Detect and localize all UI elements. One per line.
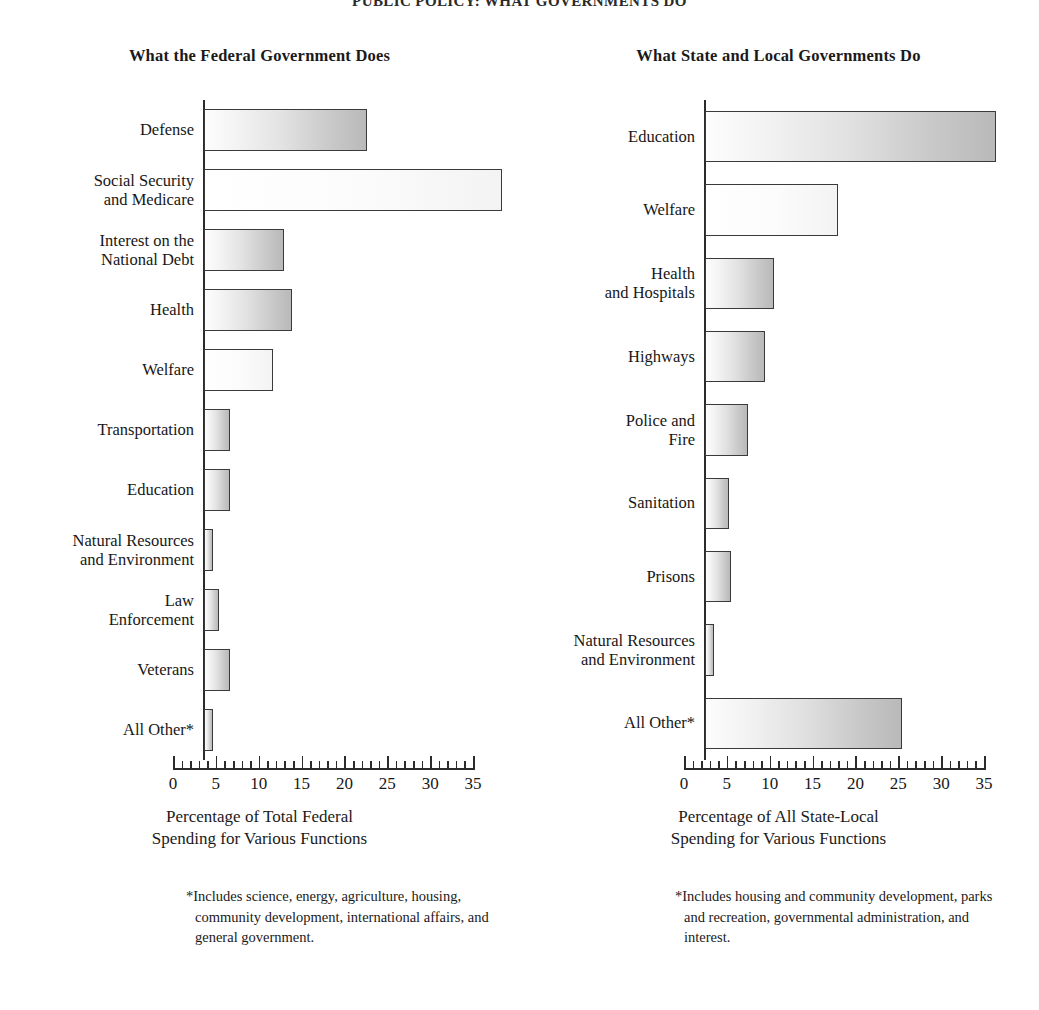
bar-category-label: Law Enforcement [0, 591, 203, 629]
axis-tick-minor [464, 761, 466, 770]
bar [705, 551, 731, 602]
bar-category-label: Interest on the National Debt [0, 231, 203, 269]
bar-row: Prisons [704, 540, 1004, 613]
bar-row: All Other* [203, 700, 503, 760]
bar-row: Highways [704, 320, 1004, 393]
bar [204, 709, 213, 751]
axis-tick-minor [456, 761, 458, 770]
bar-category-label: Police and Fire [505, 411, 704, 449]
plot-area-state-local: EducationWelfareHealth and HospitalsHigh… [704, 100, 1004, 760]
axis-tick-minor [975, 761, 977, 770]
axis-tick-label: 0 [680, 774, 689, 794]
bar-row: Welfare [704, 173, 1004, 246]
axis-tick-minor [362, 761, 364, 770]
axis-tick-minor [744, 761, 746, 770]
axis-tick-minor [233, 761, 235, 770]
axis-tick-minor [795, 761, 797, 770]
axis-tick-minor [821, 761, 823, 770]
axis-tick-minor [847, 761, 849, 770]
bar-row: Education [704, 100, 1004, 173]
axis-tick-minor [907, 761, 909, 770]
bar-row: Natural Resources and Environment [704, 613, 1004, 686]
axis-tick-minor [293, 761, 295, 770]
axis-tick-label: 25 [890, 774, 907, 794]
chart-title-state-local: What State and Local Governments Do [519, 46, 1038, 66]
bar [705, 111, 996, 162]
axis-tick-label: 15 [804, 774, 821, 794]
axis-tick-major [898, 756, 900, 770]
chart-state-local: EducationWelfareHealth and HospitalsHigh… [539, 100, 1029, 760]
axis-tick-minor [413, 761, 415, 770]
axis-tick-minor [396, 761, 398, 770]
bar-row: Police and Fire [704, 393, 1004, 466]
axis-tick-minor [718, 761, 720, 770]
bar-category-label: Transportation [0, 420, 203, 439]
axis-tick-major [770, 756, 772, 770]
axis-tick-minor [864, 761, 866, 770]
axis-tick-minor [701, 761, 703, 770]
axis-tick-minor [787, 761, 789, 770]
axis-tick-minor [276, 761, 278, 770]
axis-tick-minor [199, 761, 201, 770]
axis-tick-minor [838, 761, 840, 770]
axis-tick-major [855, 756, 857, 770]
axis-tick-label: 30 [933, 774, 950, 794]
bar-row: Natural Resources and Environment [203, 520, 503, 580]
axis-tick-minor [915, 761, 917, 770]
bar [204, 589, 219, 631]
axis-tick-minor [873, 761, 875, 770]
bar [204, 409, 230, 451]
bar-category-label: Education [0, 480, 203, 499]
bar-category-label: Highways [505, 347, 704, 366]
axis-tick-minor [336, 761, 338, 770]
bar-row: Defense [203, 100, 503, 160]
bar-category-label: Health [0, 300, 203, 319]
axis-tick-minor [778, 761, 780, 770]
bar-row: Sanitation [704, 467, 1004, 540]
bar-category-label: Health and Hospitals [505, 264, 704, 302]
bar [705, 331, 765, 382]
axis-tick-minor [327, 761, 329, 770]
axis-tick-minor [693, 761, 695, 770]
bar [204, 349, 273, 391]
x-axis-caption-state-local: Percentage of All State-Local Spending f… [519, 806, 1038, 851]
axis-tick-major [473, 756, 475, 770]
x-axis-caption-federal: Percentage of Total Federal Spending for… [0, 806, 519, 851]
bar-row: All Other* [704, 687, 1004, 760]
bar [204, 169, 502, 211]
axis-tick-label: 35 [465, 774, 482, 794]
axis-tick-label: 25 [379, 774, 396, 794]
axis-tick-minor [267, 761, 269, 770]
axis-tick-minor [735, 761, 737, 770]
chart-panel-federal: What the Federal Government Does Defense… [0, 0, 519, 1010]
bar-category-label: Sanitation [505, 494, 704, 513]
footnote-federal: *Includes science, energy, agriculture, … [186, 886, 525, 948]
axis-tick-minor [319, 761, 321, 770]
bar-category-label: Education [505, 127, 704, 146]
axis-tick-label: 10 [761, 774, 778, 794]
bar-category-label: Prisons [505, 567, 704, 586]
bar-category-label: Welfare [0, 360, 203, 379]
axis-tick-minor [370, 761, 372, 770]
axis-tick-minor [830, 761, 832, 770]
bar-rows-federal: DefenseSocial Security and MedicareInter… [203, 100, 503, 760]
bar-rows-state-local: EducationWelfareHealth and HospitalsHigh… [704, 100, 1004, 760]
bar-row: Transportation [203, 400, 503, 460]
axis-tick-minor [404, 761, 406, 770]
axis-tick-minor [447, 761, 449, 770]
axis-tick-minor [804, 761, 806, 770]
axis-tick-label: 5 [212, 774, 221, 794]
axis-tick-major [387, 756, 389, 770]
bar [204, 289, 292, 331]
axis-tick-label: 10 [250, 774, 267, 794]
bar [705, 478, 729, 529]
axis-tick-major [813, 756, 815, 770]
axis-tick-minor [422, 761, 424, 770]
bar-row: Health and Hospitals [704, 247, 1004, 320]
axis-tick-minor [190, 761, 192, 770]
axis-tick-label: 20 [847, 774, 864, 794]
axis-tick-minor [310, 761, 312, 770]
axis-tick-major [727, 756, 729, 770]
bar-row: Veterans [203, 640, 503, 700]
bar-row: Health [203, 280, 503, 340]
